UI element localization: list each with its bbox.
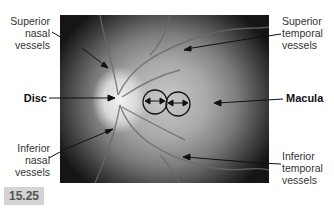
label-line: Superior (282, 15, 334, 27)
label-macula: Macula (286, 92, 334, 104)
label-disc: Disc (4, 92, 47, 104)
label-line: vessels (282, 174, 334, 186)
label-line: Superior (4, 15, 50, 27)
label-line: Inferior (282, 150, 334, 162)
label-line: nasal (4, 154, 50, 166)
label-inferior-temporal-vessels: Inferior temporal vessels (282, 150, 334, 186)
fundus-photo (60, 15, 269, 183)
label-line: vessels (4, 39, 50, 51)
label-line: vessels (4, 166, 50, 178)
label-line: Inferior (4, 142, 50, 154)
label-line: temporal (282, 27, 334, 39)
figure-number-badge: 15.25 (4, 187, 44, 205)
label-line: vessels (282, 39, 334, 51)
label-line: temporal (282, 162, 334, 174)
retina-vessels-graphic (60, 15, 269, 183)
label-superior-nasal-vessels: Superior nasal vessels (4, 15, 50, 51)
label-superior-temporal-vessels: Superior temporal vessels (282, 15, 334, 51)
label-line: nasal (4, 27, 50, 39)
label-inferior-nasal-vessels: Inferior nasal vessels (4, 142, 50, 178)
